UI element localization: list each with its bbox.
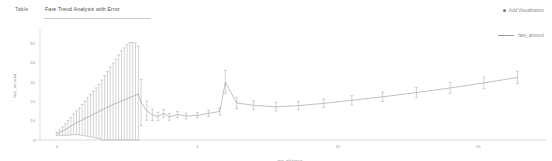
y-axis-ticks: 01020304050 bbox=[30, 41, 35, 142]
y-axis-title: fare_amount bbox=[12, 73, 17, 98]
tab-table[interactable]: Table bbox=[15, 6, 28, 12]
visualization-panel: Table Fare Trend Analysis with Error Add… bbox=[0, 0, 552, 161]
chart-area: 01020304050 051015 fare_amount trip_dist… bbox=[0, 24, 552, 161]
error-bars bbox=[55, 42, 519, 140]
add-visualization-label: Add Visualization bbox=[509, 8, 544, 13]
tab-fare-trend[interactable]: Fare Trend Analysis with Error bbox=[45, 6, 120, 12]
svg-text:30: 30 bbox=[30, 80, 35, 85]
tab-active-underline bbox=[44, 18, 151, 19]
x-axis-title: trip_distance bbox=[278, 158, 303, 161]
x-axis-ticks: 051015 bbox=[56, 144, 482, 149]
svg-text:5: 5 bbox=[196, 144, 199, 149]
add-visualization-button[interactable]: Add Visualization bbox=[503, 8, 544, 13]
tab-bar: Table Fare Trend Analysis with Error Add… bbox=[0, 0, 552, 24]
plus-dot-icon bbox=[503, 9, 506, 12]
svg-text:10: 10 bbox=[30, 118, 35, 123]
svg-text:10: 10 bbox=[335, 144, 340, 149]
svg-text:40: 40 bbox=[30, 60, 35, 65]
line-chart-with-error-bars[interactable]: 01020304050 051015 fare_amount trip_dist… bbox=[0, 24, 552, 161]
svg-text:50: 50 bbox=[30, 41, 35, 46]
svg-text:0: 0 bbox=[56, 144, 59, 149]
svg-text:15: 15 bbox=[476, 144, 481, 149]
series-line-fare-amount bbox=[57, 78, 518, 134]
svg-text:20: 20 bbox=[30, 99, 35, 104]
